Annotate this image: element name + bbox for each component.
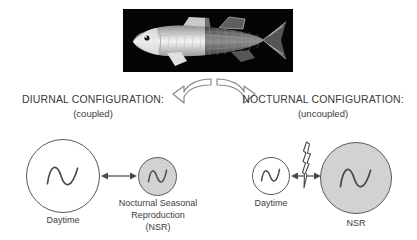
diurnal-coupling-arrow [100,168,138,184]
fish-photograph [123,9,293,72]
diurnal-configuration-subtitle: (coupled) [4,107,182,121]
diurnal-configuration-title: DIURNAL CONFIGURATION: [4,92,182,107]
diurnal-daytime-oscillator [26,139,100,213]
diurnal-nsr-caption-line-2: Reproduction [106,210,210,222]
nocturnal-daytime-caption: Daytime [243,198,299,210]
diurnal-nsr-caption: Nocturnal Seasonal Reproduction (NSR) [106,198,210,234]
diurnal-configuration-heading: DIURNAL CONFIGURATION: (coupled) [4,92,182,121]
nocturnal-daytime-oscillator [252,157,290,195]
nocturnal-configuration-subtitle: (uncoupled) [232,107,414,121]
diurnal-nsr-caption-line-1: Nocturnal Seasonal [106,198,210,210]
wave-icon [321,143,391,213]
nocturnal-nsr-caption: NSR [326,218,386,230]
wave-icon [139,158,176,195]
wave-icon [27,140,99,212]
diurnal-nsr-oscillator [138,157,177,196]
nocturnal-nsr-oscillator [320,142,392,214]
diurnal-daytime-caption: Daytime [20,215,106,227]
lightning-bolt-icon [299,141,313,189]
nocturnal-configuration-heading: NOCTURNAL CONFIGURATION: (uncoupled) [232,92,414,121]
nocturnal-configuration-title: NOCTURNAL CONFIGURATION: [232,92,414,107]
wave-icon [253,158,289,194]
fish-photo-graphic [123,9,293,72]
circadian-configuration-diagram: DIURNAL CONFIGURATION: (coupled) NOCTURN… [0,0,417,240]
diurnal-nsr-caption-line-3: (NSR) [106,222,210,234]
